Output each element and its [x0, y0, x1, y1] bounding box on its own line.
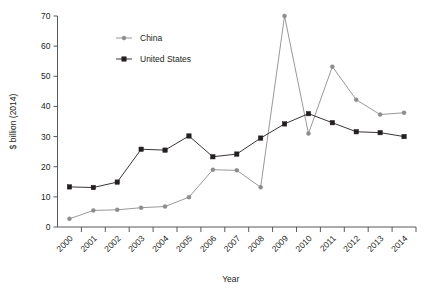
data-point	[235, 168, 239, 172]
x-axis-tick-label: 2012	[341, 233, 362, 254]
data-point	[163, 205, 167, 209]
data-point	[67, 217, 71, 221]
data-point	[354, 130, 358, 134]
data-point	[258, 136, 262, 140]
series-line	[69, 16, 404, 219]
data-point	[330, 121, 334, 125]
data-point	[91, 185, 95, 189]
x-axis-tick-label: 2000	[54, 233, 75, 254]
x-axis-tick-label: 2003	[126, 233, 147, 254]
x-axis: 2000200120022003200420052006200720082009…	[54, 227, 416, 254]
y-axis-tick-label: 50	[41, 71, 51, 81]
x-axis-tick-label: 2008	[246, 233, 267, 254]
data-point	[378, 113, 382, 117]
x-axis-tick-label: 2002	[102, 233, 123, 254]
y-axis-tick-label: 60	[41, 41, 51, 51]
data-point	[115, 180, 119, 184]
y-axis-tick-label: 0	[46, 222, 51, 232]
x-axis-tick-label: 2009	[270, 233, 291, 254]
data-point	[139, 147, 143, 151]
x-axis-tick-label: 2006	[198, 233, 219, 254]
series-china	[67, 14, 406, 221]
data-point	[211, 155, 215, 159]
series-line	[69, 114, 404, 188]
legend-item-china[interactable]: China	[116, 33, 162, 43]
data-point	[259, 185, 263, 189]
data-point	[402, 134, 406, 138]
data-point	[306, 111, 310, 115]
legend-label: China	[140, 33, 162, 43]
x-axis-tick-label: 2010	[293, 233, 314, 254]
x-axis-title: Year	[222, 274, 239, 284]
data-point	[378, 130, 382, 134]
data-point	[115, 208, 119, 212]
data-point	[402, 111, 406, 115]
series-united-states	[67, 111, 406, 189]
legend-item-united-states[interactable]: United States	[116, 54, 191, 64]
legend-label: United States	[140, 54, 191, 64]
y-axis-title: $ billion (2014)	[8, 93, 18, 149]
data-point	[283, 14, 287, 18]
data-point	[139, 206, 143, 210]
x-axis-tick-label: 2004	[150, 233, 171, 254]
x-axis-tick-label: 2001	[78, 233, 99, 254]
x-axis-tick-label: 2011	[318, 233, 338, 253]
data-point	[235, 152, 239, 156]
data-point	[282, 122, 286, 126]
data-point	[122, 57, 126, 61]
data-point	[211, 168, 215, 172]
data-point	[163, 148, 167, 152]
data-point	[122, 36, 126, 40]
x-axis-tick-label: 2005	[174, 233, 195, 254]
chart-container: 010203040506070$ billion (2014)200020012…	[0, 0, 428, 292]
data-point	[330, 65, 334, 69]
y-axis-tick-label: 40	[41, 101, 51, 111]
data-point	[91, 208, 95, 212]
legend: ChinaUnited States	[116, 33, 191, 64]
x-axis-tick-label: 2014	[389, 233, 410, 254]
y-axis-tick-label: 10	[41, 192, 51, 202]
data-point	[354, 98, 358, 102]
x-axis-tick-label: 2007	[222, 233, 243, 254]
y-axis-tick-label: 20	[41, 162, 51, 172]
data-point	[187, 195, 191, 199]
y-axis-tick-label: 70	[41, 11, 51, 21]
line-chart: 010203040506070$ billion (2014)200020012…	[0, 0, 428, 292]
y-axis: 010203040506070	[41, 11, 57, 232]
data-point	[67, 185, 71, 189]
data-point	[306, 132, 310, 136]
data-point	[187, 134, 191, 138]
y-axis-tick-label: 30	[41, 132, 51, 142]
x-axis-tick-label: 2013	[365, 233, 386, 254]
